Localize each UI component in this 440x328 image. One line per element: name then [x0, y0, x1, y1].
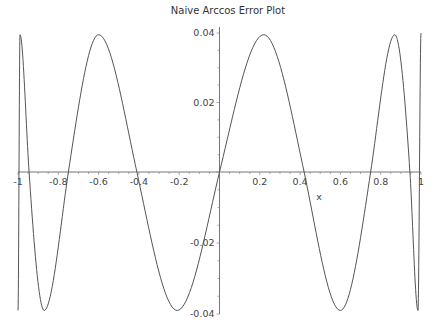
y-tick-label: -0.04 [190, 308, 215, 319]
y-tick-label: 0.04 [193, 27, 214, 38]
y-tick-label: 0.02 [193, 97, 214, 108]
axes: -1-0.8-0.6-0.4-0.20.20.40.60.810.040.02-… [13, 27, 424, 319]
x-tick-label: -0.2 [170, 176, 189, 187]
x-tick-label: -0.6 [89, 176, 108, 187]
x-tick-label: 0.8 [373, 176, 388, 187]
x-tick-label: 0.2 [252, 176, 267, 187]
x-tick-label: -1 [13, 176, 22, 187]
x-tick-label: 0.6 [333, 176, 348, 187]
x-tick-label: -0.8 [49, 176, 68, 187]
chart-title: Naive Arccos Error Plot [171, 5, 285, 16]
x-axis-label: x [316, 191, 322, 202]
error-plot: Naive Arccos Error Plot -1-0.8-0.6-0.4-0… [0, 0, 440, 328]
